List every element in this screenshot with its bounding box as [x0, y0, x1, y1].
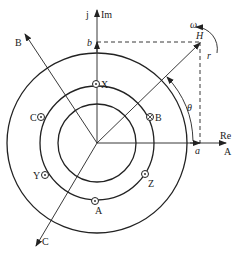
r-label: r — [207, 50, 211, 61]
a-projection-label: a — [195, 145, 200, 156]
conductor-z-label: Z — [148, 178, 154, 189]
theta-label: θ — [187, 102, 192, 113]
machine-vector-diagram: j Im Re A B C b a H θ ω r X B Z A Y C — [0, 0, 245, 255]
phase-c-axis-label: C — [42, 236, 49, 247]
real-axis-label: Re — [220, 130, 232, 141]
imag-axis-label: Im — [101, 9, 112, 20]
diagram-stage: j Im Re A B C b a H θ ω r X B Z A Y C — [0, 0, 245, 255]
conductor-x — [93, 81, 100, 88]
conductor-b-label: B — [155, 112, 162, 123]
omega-label: ω — [190, 19, 197, 30]
imag-unit-label: j — [85, 9, 89, 20]
phase-c-axis — [36, 143, 97, 246]
b-projection-label: b — [87, 37, 92, 48]
conductor-z — [142, 171, 149, 178]
conductor-c — [38, 114, 45, 121]
phase-b-axis-label: B — [15, 37, 22, 48]
vector-h — [97, 43, 200, 143]
conductor-x-label: X — [101, 79, 109, 90]
conductor-b — [147, 114, 154, 121]
vector-h-label: H — [195, 30, 204, 41]
conductor-a-label: A — [95, 205, 103, 216]
conductor-a — [92, 198, 99, 205]
conductor-y — [42, 172, 49, 179]
conductor-y-label: Y — [33, 170, 40, 181]
phase-a-axis-label: A — [224, 146, 232, 157]
conductor-c-label: C — [30, 112, 37, 123]
